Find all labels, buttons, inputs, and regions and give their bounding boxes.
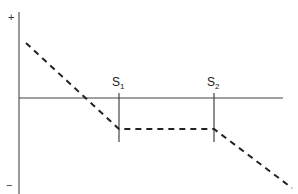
payoff-diagram (0, 0, 298, 194)
strike-2-label: S2 (207, 76, 219, 91)
strike-1-subscript: 1 (120, 82, 124, 91)
plus-sign: + (8, 12, 14, 23)
payoff-line (26, 43, 292, 188)
strike-2-subscript: 2 (215, 82, 219, 91)
minus-sign: − (6, 180, 12, 191)
strike-2-letter: S (207, 75, 215, 89)
strike-1-letter: S (112, 75, 120, 89)
strike-1-label: S1 (112, 76, 124, 91)
